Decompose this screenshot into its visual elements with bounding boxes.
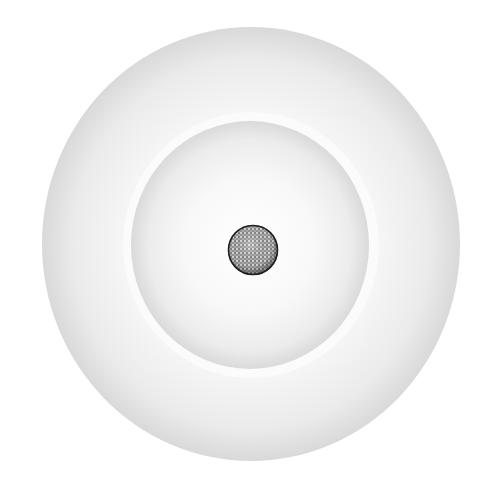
nucleus xyxy=(228,225,278,275)
atom-shell-diagram xyxy=(0,0,496,481)
